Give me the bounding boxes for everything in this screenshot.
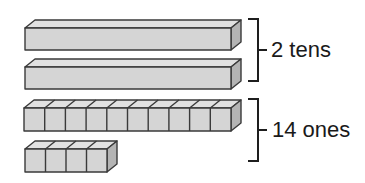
rod-front-face <box>25 67 231 89</box>
ones-group: 14 ones <box>24 99 350 172</box>
rod-top-face <box>25 20 241 28</box>
rod-front-face <box>25 28 231 50</box>
ten-rod-1 <box>25 20 241 50</box>
tens-group: 2 tens <box>25 19 331 89</box>
base-ten-diagram: 2 tens 14 ones <box>0 0 365 183</box>
ones-bracket <box>249 99 266 161</box>
tens-bracket <box>249 19 266 81</box>
ten-rod-2 <box>25 59 241 89</box>
unit-cubes-row-10 <box>24 100 241 131</box>
rod-top-face <box>25 59 241 67</box>
ones-label: 14 ones <box>272 117 350 142</box>
unit-cubes-row-4 <box>25 141 117 172</box>
tens-label: 2 tens <box>271 37 331 62</box>
